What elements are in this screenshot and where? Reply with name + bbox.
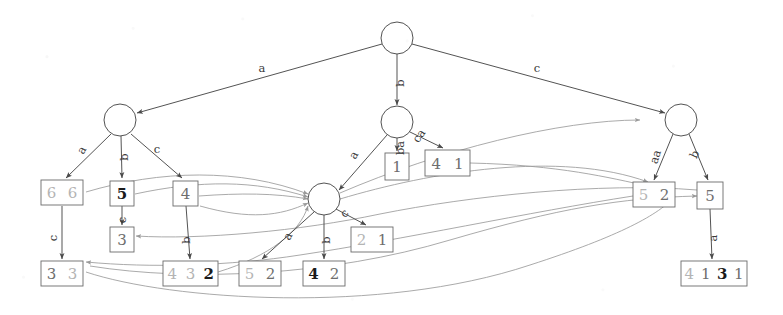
tree-edge-root-right (412, 44, 665, 113)
edge-label-left-b5a: b (117, 153, 131, 160)
box-token: 3 (186, 265, 196, 283)
box-token: 5 (705, 187, 715, 205)
box-token: 6 (68, 184, 78, 202)
box-token: 4 (431, 155, 441, 173)
edge-label-mid-b1: ba (393, 141, 407, 155)
box-node-b42[interactable]: 42 (303, 261, 345, 286)
edge-label-root-right: c (534, 61, 540, 75)
box-token: 4 (167, 265, 177, 283)
box-token: 4 (308, 265, 318, 283)
circle-node-mid[interactable] (381, 106, 413, 138)
circle-node-left[interactable] (104, 104, 136, 136)
box-node-b66[interactable]: 66 (41, 180, 83, 205)
box-token: 3 (68, 265, 78, 283)
edge-label-left-b66: a (74, 143, 90, 156)
box-node-b33[interactable]: 33 (41, 261, 83, 286)
edge-label-mid-lower: a (346, 148, 362, 161)
box-token: 2 (266, 265, 276, 283)
box-token: 1 (701, 265, 711, 283)
box-token: 5 (639, 186, 649, 204)
box-token: 5 (117, 185, 127, 203)
box-node-b5b[interactable]: 5 (697, 182, 723, 209)
edge-label-group: abcabcccbabacaabcaaba (46, 61, 720, 244)
box-node-b41[interactable]: 41 (425, 150, 470, 176)
tree-edge-b5b-b4131 (710, 209, 712, 259)
edge-label-lower-b21: c (337, 206, 351, 220)
graph-svg: 66543334325242211415254131 abcabcccbabac… (0, 0, 783, 315)
box-token: 4 (684, 265, 694, 283)
box-token: 1 (734, 265, 744, 283)
box-token: 1 (392, 158, 402, 176)
tree-edge-b4a-b432 (186, 206, 190, 259)
curved-edge (199, 194, 308, 199)
edge-label-lower-b42: b (319, 236, 333, 243)
edge-label-mid-b41: ca (409, 126, 428, 145)
box-token: 3 (117, 231, 127, 249)
edge-label-b66-b33: c (46, 235, 60, 241)
box-node-b52b[interactable]: 52 (633, 182, 675, 207)
box-node-b3a[interactable]: 3 (110, 227, 134, 252)
box-node-b4131[interactable]: 4131 (681, 261, 747, 286)
edge-label-b5a-b3a: c (115, 217, 129, 223)
circle-node-lower[interactable] (308, 183, 340, 215)
tree-edge-mid-lower (339, 135, 387, 190)
box-token: 3 (47, 265, 57, 283)
curved-edge (200, 203, 308, 215)
box-token: 2 (330, 265, 340, 283)
edge-label-root-left: a (259, 61, 266, 75)
tree-edge-left-b66 (66, 134, 111, 178)
box-token: 4 (181, 185, 191, 203)
box-token: 2 (204, 265, 214, 283)
box-token: 5 (245, 265, 255, 283)
edge-label-right-b5b: b (686, 148, 702, 161)
box-node-b21[interactable]: 21 (351, 227, 393, 252)
edge-label-b4a-b432: b (179, 236, 193, 243)
tree-edge-left-b4a (131, 134, 182, 178)
edge-label-left-b4a: c (154, 142, 160, 156)
circle-node-root[interactable] (381, 22, 413, 54)
box-node-b1[interactable]: 1 (385, 153, 409, 180)
tree-edge-root-left (137, 44, 382, 113)
box-token: 2 (357, 231, 367, 249)
diagram-canvas: 66543334325242211415254131 abcabcccbabac… (0, 0, 783, 315)
box-node-b52a[interactable]: 52 (239, 261, 281, 286)
box-token: 6 (47, 184, 57, 202)
box-token: 3 (717, 265, 727, 283)
box-node-b4a[interactable]: 4 (173, 181, 198, 206)
circle-node-right[interactable] (665, 104, 697, 136)
box-node-b432[interactable]: 432 (163, 261, 218, 286)
edge-label-b5b-b4131: a (706, 234, 720, 241)
box-token: 2 (660, 186, 670, 204)
box-node-b5a[interactable]: 5 (110, 181, 134, 206)
box-token: 1 (454, 155, 464, 173)
edge-label-root-mid: b (393, 79, 407, 86)
box-token: 1 (378, 231, 388, 249)
